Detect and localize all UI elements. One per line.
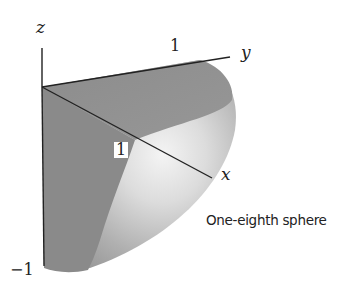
one-eighth-sphere-figure: z 1 y 1 x −1 One-eighth sphere bbox=[0, 0, 348, 292]
z-axis-label: z bbox=[36, 19, 45, 36]
z-axis-tick-label: −1 bbox=[10, 262, 34, 278]
x-axis-label: x bbox=[221, 166, 231, 183]
y-axis-label: y bbox=[241, 44, 251, 61]
y-axis-tick-label: 1 bbox=[170, 38, 180, 54]
figure-caption: One-eighth sphere bbox=[206, 212, 327, 228]
x-axis-tick-label: 1 bbox=[114, 142, 128, 158]
